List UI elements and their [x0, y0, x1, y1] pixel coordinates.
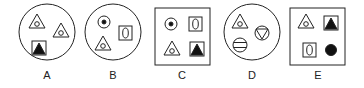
- triangle-with-circle-icon: [29, 14, 45, 28]
- option-e-frame: [290, 8, 345, 65]
- circle-with-horizontal-bars-icon: [233, 38, 247, 52]
- option-e-label: E: [308, 69, 328, 81]
- circle-with-dot-icon: [165, 18, 177, 30]
- triangle-with-circle-icon: [164, 41, 180, 55]
- triangle-with-circle-icon: [95, 36, 111, 50]
- square-with-filled-triangle-icon: [324, 16, 338, 30]
- rectangle-with-oval-icon: [303, 43, 316, 57]
- triangle-with-circle-icon: [298, 14, 314, 28]
- triangle-with-circle-icon: [232, 14, 248, 28]
- circle-with-dot-icon: [98, 16, 110, 28]
- square-with-filled-triangle-icon: [32, 41, 46, 55]
- option-d-frame: [224, 4, 280, 60]
- option-e-figure: [290, 8, 345, 65]
- option-d-figure: [224, 4, 280, 60]
- option-c-figure: [155, 8, 210, 65]
- option-b-frame: [85, 4, 141, 60]
- rectangle-with-oval-icon: [189, 17, 202, 31]
- filled-circle-icon: [326, 45, 337, 56]
- square-with-filled-triangle-icon: [190, 42, 204, 56]
- triangle-with-circle-icon: [53, 23, 69, 37]
- option-d-label: D: [242, 69, 262, 81]
- option-c-label: C: [172, 69, 192, 81]
- circle-with-inverted-triangle-icon: [255, 26, 269, 40]
- option-a-figure: [19, 4, 75, 60]
- option-a-label: A: [37, 69, 57, 81]
- option-b-label: B: [103, 69, 123, 81]
- option-b-figure: [85, 4, 141, 60]
- rectangle-with-oval-icon: [119, 26, 132, 40]
